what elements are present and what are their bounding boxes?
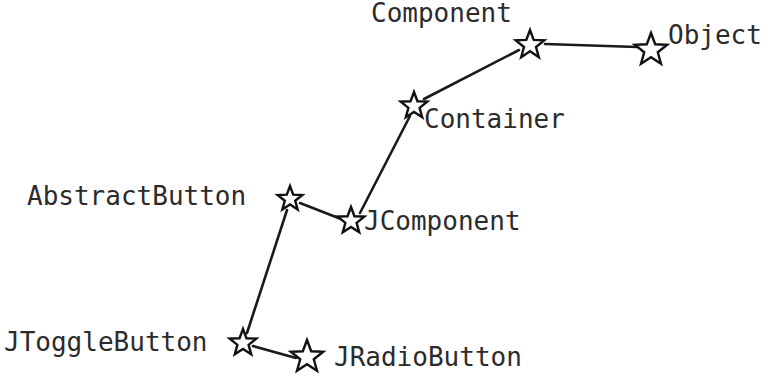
node-label-abstractbutton: AbstractButton xyxy=(27,183,246,209)
node-label-container: Container xyxy=(424,106,565,132)
node-label-component: Component xyxy=(371,0,512,26)
edge-container-component xyxy=(424,50,519,99)
node-label-jradiobutton: JRadioButton xyxy=(334,344,522,370)
edge-component-object xyxy=(545,44,637,47)
edge-jtogglebutton-abstractbutton xyxy=(247,210,287,333)
node-label-object: Object xyxy=(668,22,762,48)
node-star-component[interactable] xyxy=(516,30,545,57)
edge-abstractbutton-jcomponent xyxy=(300,203,341,219)
node-label-jcomponent: JComponent xyxy=(364,208,521,234)
diagram-canvas: ObjectComponentContainerJComponentAbstra… xyxy=(0,0,773,387)
edge-jcomponent-container xyxy=(360,116,410,213)
node-star-jtogglebutton[interactable] xyxy=(230,329,257,354)
nodes-group xyxy=(230,30,667,371)
edges-group xyxy=(247,44,637,358)
node-star-jradiobutton[interactable] xyxy=(291,340,323,371)
node-label-jtogglebutton: JToggleButton xyxy=(4,329,208,355)
node-star-abstractbutton[interactable] xyxy=(278,186,303,210)
node-star-object[interactable] xyxy=(635,33,667,64)
